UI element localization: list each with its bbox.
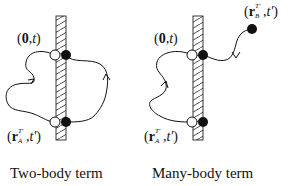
filled-vertex-bottom bbox=[61, 117, 71, 127]
label-top-two-body: (0,t) bbox=[17, 32, 41, 46]
path-loop-left bbox=[150, 51, 192, 122]
caption-two-body: Two-body term bbox=[10, 166, 103, 181]
label-top-many-body: (0,t) bbox=[154, 32, 178, 46]
open-vertex-top bbox=[187, 50, 197, 60]
arrow-external-icon bbox=[232, 52, 240, 58]
arrow-right-icon bbox=[103, 74, 110, 80]
label-external-many-body: (rT'B,t') bbox=[244, 5, 278, 19]
arrow-left-icon bbox=[161, 81, 168, 88]
path-loop-left bbox=[6, 51, 55, 122]
open-vertex-bottom bbox=[187, 117, 197, 127]
path-external bbox=[203, 29, 252, 61]
filled-vertex-top bbox=[198, 50, 208, 60]
caption-many-body: Many-body term bbox=[152, 166, 253, 181]
open-vertex-bottom bbox=[50, 117, 60, 127]
path-loop-right bbox=[66, 55, 108, 122]
external-vertex bbox=[247, 24, 257, 34]
label-bottom-many-body: (rT'A,t') bbox=[144, 130, 178, 144]
label-bottom-two-body: (rT'A,t') bbox=[7, 130, 41, 144]
diagram-canvas bbox=[0, 0, 296, 186]
filled-vertex-top bbox=[61, 50, 71, 60]
open-vertex-top bbox=[50, 50, 60, 60]
filled-vertex-bottom bbox=[198, 117, 208, 127]
